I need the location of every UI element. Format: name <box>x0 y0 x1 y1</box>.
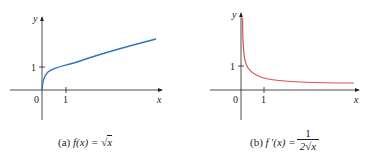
fraction-denominator: 2√x <box>296 140 320 152</box>
caption-a-prefix: (a) <box>58 136 70 148</box>
caption-b: (b) f ′(x) = <box>250 136 296 148</box>
x-axis-label: x <box>353 94 359 105</box>
caption-b-fraction: 1 2√x <box>296 127 320 152</box>
derivative-curve <box>243 18 355 83</box>
x-tick-label-1: 1 <box>261 94 266 105</box>
caption-a-radicand: x <box>107 135 112 148</box>
panel-b-graph: y x 0 1 1 <box>210 9 359 120</box>
sqrt-curve <box>42 39 156 90</box>
x-axis-label: x <box>156 94 162 105</box>
y-tick-label-1: 1 <box>31 62 36 73</box>
origin-label: 0 <box>34 94 39 105</box>
fraction-numerator: 1 <box>296 127 320 139</box>
caption-b-prefix: (b) <box>250 136 263 148</box>
caption-b-function: f ′(x) = <box>266 136 296 148</box>
x-tick-label-1: 1 <box>63 94 68 105</box>
origin-label: 0 <box>233 94 238 105</box>
y-axis-label: y <box>231 9 237 20</box>
y-tick-label-1: 1 <box>230 61 235 72</box>
caption-a-function: f(x) = <box>73 136 101 148</box>
panel-a-graph: y x 0 1 1 <box>10 13 162 120</box>
y-axis-label: y <box>32 13 38 24</box>
caption-a: (a) f(x) = √x <box>58 136 112 148</box>
